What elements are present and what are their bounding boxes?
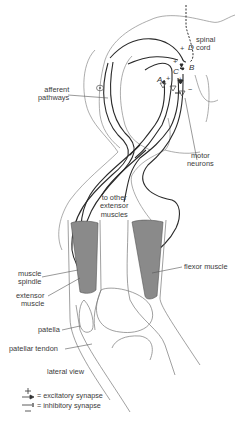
extensor-muscle-shape [71, 221, 98, 293]
legend-inhibitory: = inhibitory synapse [37, 401, 101, 410]
plus-sign-c: + [173, 58, 177, 66]
flexor-muscle-shape [132, 220, 163, 299]
motor-neurons-label: motor neurons [187, 152, 214, 169]
midline-dashed [186, 5, 193, 62]
synapse-letter-d: D [188, 43, 194, 52]
afferent-pathways-label: afferent pathways [38, 86, 69, 103]
lateral-view-label: lateral view [47, 368, 84, 376]
to-other-extensor-muscles-label: to other extensor muscles [100, 194, 128, 219]
spinal-cord-label: spinal cord [196, 36, 215, 53]
flexor-muscle-label: flexor muscle [184, 263, 228, 271]
extensor-muscle-label: extensor muscle [16, 292, 44, 309]
legend-excitatory: = excitatory synapse [37, 391, 103, 400]
muscle-spindle-label: muscle spindle [18, 270, 41, 287]
plus-sign-b: + [178, 76, 182, 84]
patella-label: patella [38, 326, 60, 334]
legend-symbols [22, 388, 34, 411]
patellar-tendon-label: patellar tendon [9, 345, 58, 353]
synapse-letter-b: B [189, 63, 194, 72]
minus-sign: − [188, 86, 192, 94]
plus-sign-a: + [166, 75, 170, 83]
motor-neurons [160, 83, 185, 96]
plus-sign-d: + [180, 45, 184, 53]
knee-jerk-reflex-diagram: spinal cord afferent pathways motor neur… [0, 0, 235, 423]
synapse-letter-a: A [157, 75, 162, 84]
